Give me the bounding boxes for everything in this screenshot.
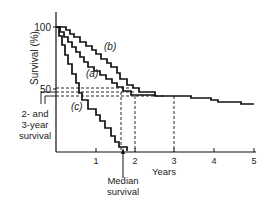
- y-axis-title: Survival (%): [29, 31, 40, 85]
- curve-b: [56, 27, 155, 96]
- series-label-b: (b): [104, 41, 116, 52]
- median-arrow-head-icon: [121, 148, 125, 154]
- series-label-c: (c): [71, 101, 83, 112]
- annotation-left-line2: 3-year: [22, 119, 49, 130]
- survival-chart: 100 50 1 2 3 4 5 Survival (%) Years (b) …: [0, 0, 269, 201]
- y-label-50: 50: [40, 84, 52, 95]
- x-label-3: 3: [171, 156, 176, 166]
- annotation-left-line1: 2- and: [22, 108, 49, 119]
- x-label-1: 1: [93, 156, 98, 166]
- annotation-median-line2: survival: [107, 186, 139, 197]
- annotation-left-line3: survival: [19, 130, 51, 141]
- x-label-2: 2: [132, 156, 137, 166]
- x-label-4: 4: [211, 156, 216, 166]
- series-label-a: (a): [86, 68, 98, 79]
- annotation-median-line1: Median: [107, 175, 138, 186]
- x-label-5: 5: [251, 156, 256, 166]
- x-axis-title: Years: [152, 166, 176, 177]
